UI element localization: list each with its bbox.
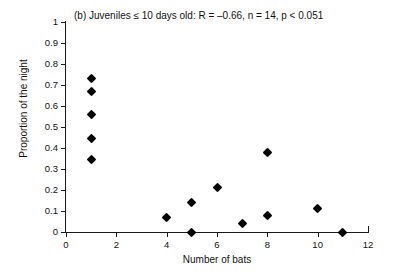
x-axis-end-tick — [368, 226, 369, 233]
y-tick-label: 0 — [0, 227, 58, 237]
x-tick-mark — [167, 233, 168, 237]
y-tick-mark — [61, 127, 65, 128]
y-tick-label: 0.5 — [0, 122, 58, 132]
x-tick-mark — [267, 233, 268, 237]
y-tick-mark — [61, 148, 65, 149]
y-tick-mark — [61, 232, 65, 233]
x-tick-label: 0 — [46, 239, 86, 250]
y-tick-label: 0.3 — [0, 164, 58, 174]
y-tick-mark — [61, 190, 65, 191]
y-tick-mark — [61, 43, 65, 44]
y-tick-label: 0.1 — [0, 206, 58, 216]
x-tick-label: 4 — [147, 239, 187, 250]
chart-title: (b) Juveniles ≤ 10 days old: R = –0.66, … — [74, 10, 323, 22]
x-axis-label: Number of bats — [66, 254, 368, 265]
y-tick-label: 0.4 — [0, 143, 58, 153]
y-tick-mark — [61, 85, 65, 86]
y-tick-label: 0.8 — [0, 59, 58, 69]
y-tick-mark — [61, 64, 65, 65]
x-tick-mark — [66, 233, 67, 237]
x-tick-label: 8 — [247, 239, 287, 250]
x-tick-label: 6 — [197, 239, 237, 250]
y-tick-mark — [61, 211, 65, 212]
y-tick-label: 1 — [0, 17, 58, 27]
y-tick-label: 0.9 — [0, 38, 58, 48]
x-tick-label: 12 — [348, 239, 388, 250]
y-tick-label: 0.2 — [0, 185, 58, 195]
scatter-plot-figure: (b) Juveniles ≤ 10 days old: R = –0.66, … — [0, 0, 397, 274]
y-tick-mark — [61, 106, 65, 107]
x-tick-label: 2 — [96, 239, 136, 250]
plot-area — [66, 22, 368, 232]
y-tick-label: 0.6 — [0, 101, 58, 111]
x-tick-mark — [116, 233, 117, 237]
y-tick-label: 0.7 — [0, 80, 58, 90]
x-tick-mark — [217, 233, 218, 237]
y-tick-mark — [61, 169, 65, 170]
x-tick-label: 10 — [298, 239, 338, 250]
y-tick-mark — [61, 22, 65, 23]
x-tick-mark — [318, 233, 319, 237]
